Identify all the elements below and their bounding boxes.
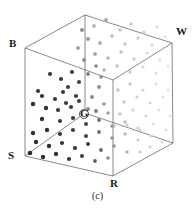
data-point bbox=[161, 141, 164, 144]
data-point bbox=[122, 100, 125, 103]
data-point bbox=[36, 89, 40, 93]
data-point bbox=[116, 88, 119, 91]
data-point bbox=[60, 141, 64, 145]
data-point bbox=[162, 96, 165, 99]
data-point bbox=[84, 134, 88, 138]
data-point bbox=[99, 75, 103, 79]
data-point bbox=[71, 128, 75, 132]
data-point bbox=[86, 142, 90, 146]
data-point bbox=[44, 106, 48, 110]
data-point bbox=[80, 28, 84, 32]
data-point bbox=[141, 88, 144, 91]
data-point bbox=[163, 35, 166, 38]
data-point bbox=[136, 138, 139, 141]
figure-caption: (c) bbox=[0, 190, 195, 201]
data-point bbox=[123, 42, 126, 45]
data-point bbox=[115, 64, 118, 67]
data-point bbox=[94, 109, 98, 113]
data-point bbox=[34, 140, 38, 144]
data-point bbox=[118, 28, 122, 32]
data-point bbox=[110, 136, 114, 140]
vertex-label-white: W bbox=[176, 26, 187, 37]
data-point bbox=[40, 94, 44, 98]
color-cube-figure: B W S R G (c) bbox=[0, 0, 195, 212]
data-point bbox=[141, 65, 144, 68]
data-point bbox=[158, 109, 161, 112]
data-point bbox=[154, 82, 157, 85]
data-point bbox=[167, 89, 170, 92]
data-point bbox=[53, 97, 57, 101]
data-point bbox=[31, 102, 35, 106]
data-point bbox=[31, 131, 35, 135]
data-point bbox=[112, 144, 116, 148]
data-point bbox=[154, 71, 157, 74]
data-point bbox=[148, 101, 151, 104]
cube-edge bbox=[113, 43, 172, 80]
data-point bbox=[92, 24, 96, 28]
data-point bbox=[110, 124, 114, 128]
cube-edge bbox=[85, 15, 172, 43]
data-point bbox=[71, 116, 75, 120]
data-point bbox=[59, 77, 63, 81]
vertex-label-red: R bbox=[110, 178, 118, 189]
data-point bbox=[128, 82, 131, 85]
data-point bbox=[106, 56, 110, 60]
data-point bbox=[123, 120, 126, 123]
cube-edge bbox=[85, 113, 173, 143]
data-point bbox=[64, 101, 68, 105]
vertex-label-s: S bbox=[8, 150, 14, 161]
data-point bbox=[66, 85, 70, 89]
data-point bbox=[82, 58, 86, 62]
data-point bbox=[131, 108, 134, 111]
data-point bbox=[167, 65, 170, 68]
data-point bbox=[58, 119, 62, 123]
data-point bbox=[132, 57, 135, 60]
data-point bbox=[106, 111, 110, 115]
data-point bbox=[69, 105, 73, 109]
cube-edge bbox=[172, 43, 173, 143]
data-point bbox=[40, 117, 44, 121]
data-point bbox=[97, 118, 101, 122]
data-point bbox=[169, 115, 172, 118]
data-point bbox=[48, 72, 52, 76]
data-point bbox=[106, 156, 110, 160]
data-point bbox=[28, 151, 33, 156]
data-point bbox=[148, 145, 151, 148]
data-point bbox=[41, 155, 45, 159]
data-point bbox=[56, 108, 60, 112]
data-point bbox=[67, 157, 71, 161]
data-point bbox=[93, 159, 97, 163]
data-point bbox=[54, 152, 58, 156]
data-point bbox=[47, 144, 51, 148]
vertex-label-green: G bbox=[80, 108, 89, 119]
data-point bbox=[73, 146, 77, 150]
data-point bbox=[123, 132, 126, 135]
data-point bbox=[77, 80, 81, 84]
data-point bbox=[76, 46, 80, 50]
data-point bbox=[70, 70, 74, 74]
data-point bbox=[144, 114, 147, 117]
vertex-label-black: B bbox=[9, 38, 16, 49]
data-point bbox=[104, 18, 108, 22]
data-point bbox=[118, 112, 121, 115]
data-point bbox=[150, 43, 153, 46]
data-point bbox=[136, 36, 139, 39]
cube-diagram bbox=[0, 0, 195, 212]
cube-edge bbox=[113, 143, 173, 176]
data-point bbox=[125, 123, 128, 126]
data-point bbox=[94, 64, 98, 68]
data-point bbox=[128, 70, 131, 73]
data-point bbox=[86, 72, 90, 76]
cube-edge bbox=[25, 48, 113, 80]
cube-edge bbox=[25, 15, 85, 48]
data-point bbox=[135, 95, 138, 98]
cube-edges bbox=[25, 15, 173, 176]
data-point bbox=[98, 41, 102, 45]
data-point bbox=[84, 122, 88, 126]
data-point bbox=[145, 51, 148, 54]
data-point bbox=[155, 25, 158, 28]
data-point bbox=[110, 34, 114, 38]
data-point bbox=[61, 90, 65, 94]
data-point bbox=[142, 30, 145, 33]
scatter-points bbox=[28, 18, 172, 163]
